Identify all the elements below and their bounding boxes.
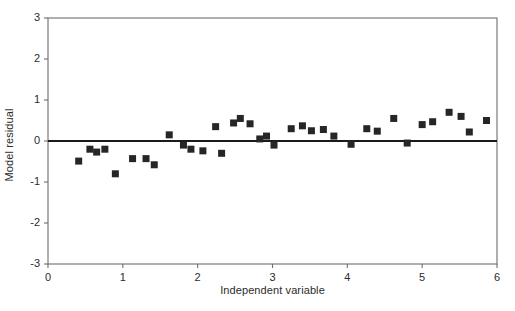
data-point-marker (466, 128, 473, 135)
data-point-marker (151, 161, 158, 168)
data-point-marker (237, 115, 244, 122)
data-point-marker (348, 141, 355, 148)
data-point-marker (199, 147, 206, 154)
data-point-marker (419, 121, 426, 128)
data-point-marker (483, 117, 490, 124)
data-point-marker (218, 150, 225, 157)
data-point-marker (308, 127, 315, 134)
data-point-marker (288, 125, 295, 132)
data-point-marker (180, 142, 187, 149)
data-point-marker (263, 133, 270, 140)
data-point-marker (320, 126, 327, 133)
data-point-marker (187, 146, 194, 153)
data-point-marker (363, 125, 370, 132)
data-point-marker (446, 109, 453, 116)
data-point-marker (112, 170, 119, 177)
data-point-marker (93, 149, 100, 156)
data-point-marker (374, 128, 381, 135)
data-point-marker (75, 158, 82, 165)
data-point-marker (256, 135, 263, 142)
data-point-marker (129, 155, 136, 162)
data-point-marker (299, 122, 306, 129)
data-point-marker (247, 120, 254, 127)
data-point-marker (230, 119, 237, 126)
data-point-marker (404, 140, 411, 147)
data-point-marker (166, 131, 173, 138)
data-point-marker (458, 113, 465, 120)
data-point-marker (330, 133, 337, 140)
data-point-marker (270, 142, 277, 149)
data-point-marker (429, 118, 436, 125)
data-point-marker (212, 123, 219, 130)
plot-area (0, 0, 515, 311)
data-point-marker (86, 146, 93, 153)
data-point-marker (390, 115, 397, 122)
scatter-chart-figure: Model residual Independent variable -3-2… (0, 0, 515, 311)
data-point-marker (101, 146, 108, 153)
data-point-marker (143, 155, 150, 162)
